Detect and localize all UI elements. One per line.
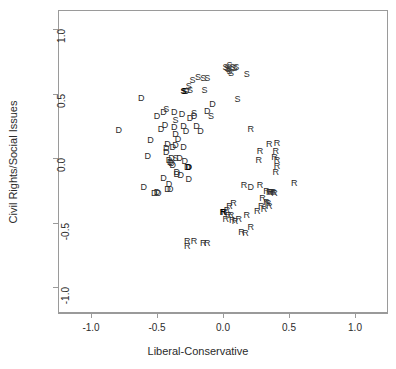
- x-tick-mark: [289, 313, 290, 318]
- data-point-s: S: [208, 111, 214, 120]
- x-tick-label: -1.0: [82, 322, 99, 333]
- data-point-r: R: [247, 124, 254, 133]
- data-point-s: S: [235, 94, 241, 103]
- x-tick-mark: [223, 313, 224, 318]
- data-point-r: R: [257, 181, 264, 190]
- data-point-r: R: [242, 229, 249, 238]
- x-tick-label: 1.0: [348, 322, 362, 333]
- y-tick-mark: [53, 223, 58, 224]
- data-point-r: R: [254, 207, 261, 216]
- x-tick-label: 0.0: [216, 322, 230, 333]
- y-tick-label: 0.5: [56, 94, 67, 108]
- data-point-highlighted-d: D: [185, 163, 192, 172]
- x-tick-mark: [91, 313, 92, 318]
- data-point-highlighted-s: S: [180, 87, 186, 96]
- data-point-d: D: [180, 142, 187, 151]
- data-point-d: D: [160, 173, 167, 182]
- data-point-d: D: [197, 127, 204, 136]
- x-tick-label: 0.5: [282, 322, 296, 333]
- data-point-r: R: [204, 239, 211, 248]
- data-point-d: D: [179, 110, 186, 119]
- x-tick-label: -0.5: [148, 322, 165, 333]
- scatter-plot-figure: DDDDDDDDDDDDDDDDDDDDDDDDDDDDDDDDDDDDDDDD…: [0, 0, 396, 369]
- data-point-highlighted-r: R: [220, 208, 227, 217]
- data-point-s: S: [202, 85, 208, 94]
- data-point-d: D: [147, 136, 154, 145]
- data-point-r: R: [191, 236, 198, 245]
- data-point-d: D: [183, 127, 190, 136]
- data-point-r: R: [271, 189, 278, 198]
- data-point-s: S: [233, 62, 239, 71]
- data-point-r: R: [273, 168, 280, 177]
- chart-title: [0, 0, 396, 1]
- data-point-d: D: [115, 125, 122, 134]
- data-point-d: D: [141, 182, 148, 191]
- data-point-d: D: [209, 100, 216, 109]
- y-tick-label: 1.0: [56, 29, 67, 43]
- y-axis-label-wrapper: Civil Rights/Social Issues: [2, 0, 24, 323]
- data-point-s: S: [244, 70, 250, 79]
- data-point-d: D: [145, 151, 152, 160]
- data-point-r: R: [291, 178, 298, 187]
- data-point-s: S: [172, 115, 178, 124]
- data-point-s: S: [187, 85, 193, 94]
- y-tick-label: -1.0: [60, 287, 71, 304]
- data-point-s: S: [204, 74, 210, 83]
- x-tick-mark: [355, 313, 356, 318]
- data-point-d: D: [185, 174, 192, 183]
- data-point-d: D: [247, 182, 254, 191]
- data-point-r: R: [241, 181, 248, 190]
- data-point-r: R: [244, 211, 251, 220]
- data-point-r: R: [261, 204, 268, 213]
- x-axis-label: Liberal-Conservative: [0, 345, 396, 357]
- data-point-d: D: [155, 189, 162, 198]
- y-tick-mark: [53, 287, 58, 288]
- data-point-s: S: [163, 105, 169, 114]
- data-point-d: D: [178, 171, 185, 180]
- data-point-d: D: [138, 93, 145, 102]
- data-point-r: R: [255, 155, 262, 164]
- data-point-d: D: [162, 120, 169, 129]
- data-point-r: R: [184, 241, 191, 250]
- y-tick-label: 0.0: [56, 158, 67, 172]
- y-tick-label: -0.5: [60, 223, 71, 240]
- data-point-s: S: [191, 109, 197, 118]
- data-point-r: R: [236, 214, 243, 223]
- data-points-layer: DDDDDDDDDDDDDDDDDDDDDDDDDDDDDDDDDDDDDDDD…: [58, 10, 388, 313]
- y-axis-label: Civil Rights/Social Issues: [7, 100, 19, 223]
- data-point-d: D: [154, 111, 161, 120]
- x-tick-mark: [157, 313, 158, 318]
- data-point-s: S: [172, 154, 178, 163]
- data-point-r: R: [266, 140, 273, 149]
